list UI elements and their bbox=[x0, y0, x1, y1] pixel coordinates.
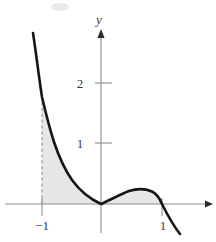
scan-artifact bbox=[51, 3, 69, 11]
y-axis-arrow-icon bbox=[97, 29, 104, 38]
x-axis-arrow-icon bbox=[205, 200, 213, 207]
y-tick-label-1: 1 bbox=[77, 136, 84, 151]
x-tick-label-minus-1: −1 bbox=[35, 218, 49, 233]
y-tick-label-2: 2 bbox=[77, 76, 84, 91]
x-tick-label-1: 1 bbox=[160, 218, 167, 233]
graph-canvas: y 2 1 −1 1 bbox=[0, 0, 216, 242]
math-figure: y 2 1 −1 1 bbox=[0, 0, 216, 242]
shaded-area-region bbox=[42, 97, 162, 204]
y-axis-label: y bbox=[94, 12, 102, 27]
